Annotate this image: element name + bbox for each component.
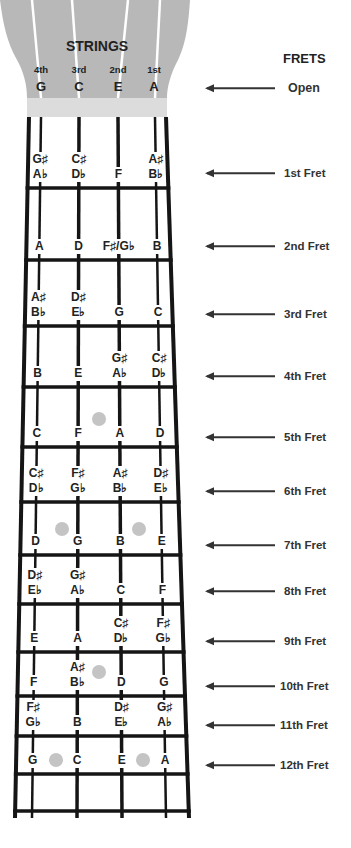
flat-note: G♭ <box>156 631 171 646</box>
natural-note: G <box>73 534 82 549</box>
fret-note-label: C <box>116 583 125 598</box>
fret-note-label: C♯D♭ <box>71 152 86 182</box>
fret-label: 7th Fret <box>284 539 326 551</box>
natural-note: D <box>74 239 83 254</box>
fret-note-label: D♯E♭ <box>71 290 86 320</box>
natural-note: G <box>159 675 168 690</box>
fret-note-label: F <box>74 426 81 441</box>
fret-inlay-dot <box>92 412 106 426</box>
fret-note-label: C♯D♭ <box>29 466 44 496</box>
sharp-note: F♯ <box>26 700 41 715</box>
natural-note: F <box>159 583 166 598</box>
natural-note: E <box>118 753 126 768</box>
fret-label: 2nd Fret <box>284 240 329 252</box>
fret-note-label: D♯E♭ <box>154 466 169 496</box>
fret-label: 4th Fret <box>284 370 326 382</box>
flat-note: D♭ <box>114 631 129 646</box>
fret-label: 10th Fret <box>280 680 329 692</box>
fret-note-label: A <box>35 239 44 254</box>
ukulele-fretboard-diagram: STRINGS 4thG3rdC2ndE1stA FRETS Open G♯A♭… <box>0 0 351 848</box>
string-ordinal: 1st <box>147 65 161 75</box>
sharp-note: A♯ <box>31 290 46 305</box>
natural-note: C <box>154 305 163 320</box>
fret-note-label: B <box>153 239 162 254</box>
fret-note-label: G♯A♭ <box>112 351 127 381</box>
sharp-note: C♯ <box>152 351 167 366</box>
flat-note: B♭ <box>113 481 128 496</box>
open-string-note: A <box>149 80 158 93</box>
sharp-note: D♯ <box>28 568 43 583</box>
frets-heading: FRETS <box>283 51 326 66</box>
fret-note-label: F <box>30 675 37 690</box>
fret-note-label: B <box>33 366 42 381</box>
fret-note-label: B <box>73 715 82 730</box>
fret-note-label: A <box>115 426 124 441</box>
fret-note-label: F <box>159 583 166 598</box>
natural-note: A <box>73 631 82 646</box>
string-ordinal: 2nd <box>110 65 127 75</box>
natural-note: D <box>117 675 126 690</box>
sharp-note: A♯ <box>149 152 164 167</box>
fret-arrow <box>207 764 275 766</box>
sharp-note: G♯ <box>112 351 127 366</box>
natural-note: C <box>73 753 82 768</box>
fret-note-label: G <box>73 534 82 549</box>
natural-note: A <box>161 753 170 768</box>
flat-note: D♭ <box>152 366 167 381</box>
fret-note-label: C♯D♭ <box>152 351 167 381</box>
fret-note-label: B <box>116 534 125 549</box>
fret-note-label: D <box>31 534 40 549</box>
flat-note: D♭ <box>29 481 44 496</box>
flat-note: B♭ <box>70 675 85 690</box>
flat-note: E♭ <box>154 481 169 496</box>
fret-label: 1st Fret <box>284 167 326 179</box>
fret-note-label: F♯G♭ <box>156 616 171 646</box>
fret-arrow <box>207 685 275 687</box>
fret-note-label: A♯B♭ <box>149 152 164 182</box>
sharp-note: C♯ <box>114 616 129 631</box>
sharp-note: A♯ <box>70 660 85 675</box>
natural-note: B <box>153 239 162 254</box>
flat-note: A♭ <box>157 715 172 730</box>
fret-note-label: G <box>114 305 123 320</box>
open-arrow <box>207 87 275 89</box>
fret-note-label: F♯G♭ <box>26 700 41 730</box>
sharp-note: F♯ <box>70 466 85 481</box>
fret-note-label: C <box>33 426 42 441</box>
fret-inlay-dot <box>136 753 150 767</box>
fret-note-label: G♯A♭ <box>157 700 172 730</box>
fret-inlay-dot <box>49 753 63 767</box>
fret-label: 9th Fret <box>284 635 326 647</box>
fret-note-label: F♯G♭ <box>70 466 85 496</box>
fret-note-label: A <box>161 753 170 768</box>
open-string-note: C <box>74 80 83 93</box>
natural-note: C <box>33 426 42 441</box>
natural-note: D <box>156 426 165 441</box>
flat-note: A♭ <box>33 167 48 182</box>
fret-inlay-dot <box>55 522 69 536</box>
fret-inlay-dot <box>92 665 106 679</box>
fret-inlay-dot <box>132 522 146 536</box>
fret-note-label: D♯E♭ <box>28 568 43 598</box>
fret-note-label: D <box>117 675 126 690</box>
fret-label: 6th Fret <box>284 485 326 497</box>
fret-label: 8th Fret <box>284 585 326 597</box>
flat-note: G♭ <box>70 481 85 496</box>
sharp-note: G♯ <box>157 700 172 715</box>
fret-note-label: G <box>159 675 168 690</box>
natural-note: F <box>30 675 37 690</box>
sharp-note: C♯ <box>29 466 44 481</box>
flat-note: E♭ <box>114 715 129 730</box>
fret-note-label: E <box>118 753 126 768</box>
fret-label: 3rd Fret <box>284 308 327 320</box>
strings-heading: STRINGS <box>66 38 128 54</box>
sharp-note: F♯ <box>156 616 171 631</box>
natural-note: B <box>73 715 82 730</box>
string-ordinal: 3rd <box>72 65 87 75</box>
fret-note-label: C <box>73 753 82 768</box>
fret-label: 5th Fret <box>284 431 326 443</box>
natural-note: B <box>33 366 42 381</box>
fret-note-label: C <box>154 305 163 320</box>
natural-note: G <box>114 305 123 320</box>
open-string-note: E <box>114 80 123 93</box>
